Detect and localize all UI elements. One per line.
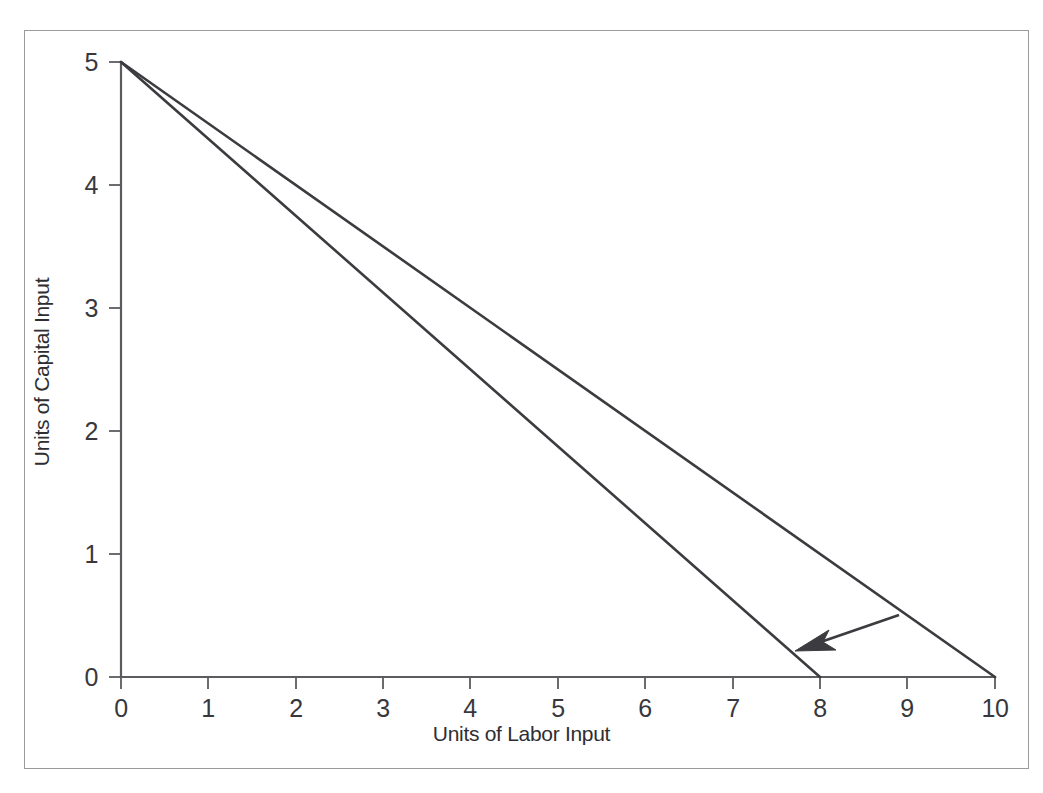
x-tick-label-3: 3 — [376, 694, 389, 723]
y-tick-label-0: 0 — [66, 663, 98, 692]
y-tick-label-1: 1 — [66, 540, 98, 569]
y-tick-marks — [109, 62, 121, 677]
x-tick-label-0: 0 — [114, 694, 127, 723]
y-tick-label-5: 5 — [66, 48, 98, 77]
x-tick-label-8: 8 — [813, 694, 826, 723]
figure-container: 0 1 2 3 4 5 0 1 2 3 4 5 6 7 8 9 10 Units… — [0, 0, 1043, 793]
y-tick-label-3: 3 — [66, 294, 98, 323]
y-axis-title: Units of Capital Input — [30, 212, 54, 532]
shift-arrow-shaft — [812, 615, 899, 645]
x-tick-label-7: 7 — [726, 694, 739, 723]
x-tick-marks — [121, 677, 995, 689]
x-tick-label-9: 9 — [900, 694, 913, 723]
x-tick-label-1: 1 — [201, 694, 214, 723]
y-tick-label-4: 4 — [66, 171, 98, 200]
x-tick-label-4: 4 — [463, 694, 476, 723]
series-line-inner-isoquant — [121, 62, 820, 677]
shift-arrow-annotation — [795, 615, 899, 651]
x-tick-label-5: 5 — [551, 694, 564, 723]
x-tick-label-10: 10 — [982, 694, 1009, 723]
series-line-outer-isoquant — [121, 62, 995, 677]
chart-plot-area — [0, 0, 1043, 793]
x-tick-label-6: 6 — [638, 694, 651, 723]
shift-arrow-head — [795, 630, 836, 651]
x-tick-label-2: 2 — [289, 694, 302, 723]
y-tick-label-2: 2 — [66, 417, 98, 446]
x-axis-title: Units of Labor Input — [0, 722, 1043, 746]
